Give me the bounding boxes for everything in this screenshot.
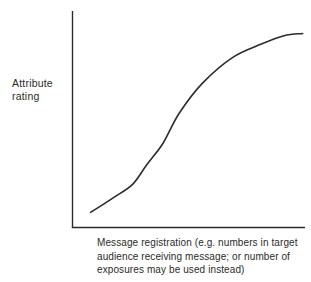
y-axis-label: Attribute rating (12, 77, 53, 103)
y-axis-label-line2: rating (12, 90, 53, 103)
x-axis-caption-line2: audience receiving message; or number of (97, 250, 298, 264)
response-curve-figure: Attribute rating Message registration (e… (0, 0, 311, 282)
x-axis-caption-line1: Message registration (e.g. numbers in ta… (97, 236, 298, 250)
y-axis-label-line1: Attribute (12, 77, 53, 90)
x-axis-caption: Message registration (e.g. numbers in ta… (97, 236, 298, 277)
response-curve (91, 34, 303, 213)
x-axis-caption-line3: exposures may be used instead) (97, 263, 298, 277)
